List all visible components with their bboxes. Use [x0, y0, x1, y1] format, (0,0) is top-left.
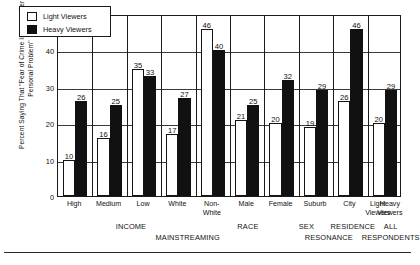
bar-light-3-value: 17 [168, 126, 176, 135]
x-category-label-3: White [168, 200, 186, 209]
bar-light-5-value: 21 [237, 112, 245, 121]
x-category-label-8: City [343, 200, 355, 209]
group-label-1-4: ALL [384, 222, 398, 231]
y-tick-40: 40 [34, 47, 54, 56]
y-tick-20: 20 [34, 120, 54, 129]
legend-label-light: Light Viewers [43, 12, 87, 21]
bar-heavy-0-value: 26 [77, 93, 85, 102]
bar-heavy-2 [144, 76, 156, 196]
bar-light-4 [201, 29, 213, 196]
bar-light-7 [304, 127, 316, 196]
bar-heavy-4 [213, 50, 225, 196]
bar-heavy-0 [75, 101, 87, 196]
bar-heavy-7 [316, 90, 328, 196]
bar-heavy-6-value: 32 [283, 72, 291, 81]
bar-light-6-value: 20 [271, 115, 279, 124]
legend-item-heavy: Heavy Viewers [27, 24, 92, 35]
legend-item-light: Light Viewers [27, 11, 87, 22]
group-label-1-1: RACE [237, 222, 258, 231]
bar-light-3 [166, 134, 178, 196]
group-label-2-1: RESONANCE [305, 233, 353, 242]
bar-light-1 [97, 138, 109, 196]
chart-legend: Light ViewersHeavy Viewers [19, 6, 111, 37]
bar-heavy-9-value: 29 [387, 82, 395, 91]
y-tick-30: 30 [34, 83, 54, 92]
y-tick-10: 10 [34, 156, 54, 165]
x-category-label-4: Non-White [203, 200, 221, 217]
bar-heavy-9 [385, 90, 397, 196]
bar-light-4-value: 46 [202, 21, 210, 30]
bar-light-2-value: 35 [134, 61, 142, 70]
bar-light-5 [235, 120, 247, 196]
x-axis-group-labels: INCOMERACESEXRESIDENCEALLMAINSTREAMINGRE… [57, 222, 401, 254]
bar-heavy-3-value: 27 [180, 90, 188, 99]
bar-light-1-value: 16 [99, 130, 107, 139]
x-category-label-1: Medium [96, 200, 121, 209]
x-category-label-6: Female [269, 200, 293, 209]
bar-light-2 [132, 69, 144, 196]
y-tick-0: 0 [34, 193, 54, 202]
bar-heavy-5 [247, 105, 259, 196]
bar-heavy-4-value: 40 [215, 42, 223, 51]
group-label-2-0: MAINSTREAMING [156, 233, 220, 242]
group-label-1-2: SEX [299, 222, 314, 231]
group-label-2-2: RESPONDENTS [362, 233, 420, 242]
bottom-rule [4, 252, 411, 253]
group-label-1-3: RESIDENCE [331, 222, 375, 231]
legend-swatch-heavy-icon [27, 25, 37, 34]
bar-heavy-7-value: 29 [318, 82, 326, 91]
bar-light-9-value: 20 [374, 115, 382, 124]
x-category-label-7: Suburb [304, 200, 327, 209]
bar-light-6 [269, 123, 281, 196]
x-category-label-2: Low [136, 200, 149, 209]
bar-heavy-1 [110, 105, 122, 196]
bar-heavy-1-value: 25 [111, 97, 119, 106]
bar-light-7-value: 19 [306, 119, 314, 128]
x-category-label-5: Male [238, 200, 253, 209]
plot-area: 1026162535331727464021252032192926462029 [57, 15, 401, 197]
bar-heavy-8-value: 46 [352, 21, 360, 30]
bar-light-0 [63, 160, 75, 196]
bar-light-0-value: 10 [65, 152, 73, 161]
bar-heavy-6 [282, 80, 294, 196]
bar-light-8-value: 26 [340, 93, 348, 102]
x-category-label-10: HeavyViewers [377, 200, 402, 217]
bar-heavy-3 [178, 98, 190, 196]
bar-heavy-5-value: 25 [249, 97, 257, 106]
bar-light-9 [373, 123, 385, 196]
bar-series-layer: 1026162535331727464021252032192926462029 [58, 16, 400, 196]
bar-light-8 [338, 101, 350, 196]
bar-heavy-8 [350, 29, 362, 196]
legend-label-heavy: Heavy Viewers [43, 25, 92, 34]
legend-swatch-light-icon [27, 12, 37, 21]
x-category-label-0: High [67, 200, 82, 209]
group-label-1-0: INCOME [116, 222, 146, 231]
y-axis-tick-labels: 50403020100 [33, 15, 54, 197]
bar-heavy-2-value: 33 [146, 68, 154, 77]
